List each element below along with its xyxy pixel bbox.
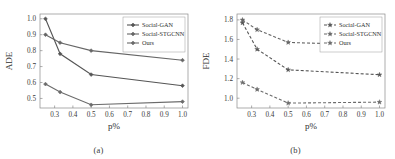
y-axis-label: ADE bbox=[4, 51, 14, 70]
y-tick-label: 1.2 bbox=[224, 75, 233, 83]
x-tick-label: 0.3 bbox=[247, 111, 256, 119]
panel-a-caption: (a) bbox=[0, 145, 197, 155]
chart-b: 0.30.40.50.60.70.80.91.01.01.21.41.61.8p… bbox=[197, 0, 394, 159]
x-tick-label: 0.9 bbox=[357, 111, 366, 119]
y-tick-label: 0.9 bbox=[27, 31, 36, 39]
x-tick-label: 0.6 bbox=[302, 111, 311, 119]
x-tick-label: 0.9 bbox=[160, 111, 169, 119]
legend-label-0: Social-GAN bbox=[339, 21, 370, 28]
y-tick-label: 0.7 bbox=[27, 63, 36, 71]
y-tick-label: 1.8 bbox=[224, 16, 233, 24]
panel-b-caption: (b) bbox=[197, 145, 394, 155]
x-tick-label: 0.8 bbox=[141, 111, 150, 119]
x-tick-label: 0.4 bbox=[68, 111, 77, 119]
x-tick-label: 1.0 bbox=[178, 111, 187, 119]
x-tick-label: 0.6 bbox=[105, 111, 114, 119]
y-tick-label: 0.8 bbox=[27, 47, 36, 55]
y-axis-label: FDE bbox=[201, 52, 211, 70]
x-tick-label: 0.8 bbox=[338, 111, 347, 119]
x-tick-label: 0.5 bbox=[284, 111, 293, 119]
x-axis-label: p% bbox=[305, 121, 318, 131]
x-tick-label: 0.5 bbox=[87, 111, 96, 119]
panel-a: 0.30.40.50.60.70.80.91.00.50.60.70.80.91… bbox=[0, 0, 197, 159]
x-axis-label: p% bbox=[108, 121, 121, 131]
y-tick-label: 1.0 bbox=[27, 15, 36, 23]
chart-a: 0.30.40.50.60.70.80.91.00.50.60.70.80.91… bbox=[0, 0, 197, 159]
y-tick-label: 1.0 bbox=[224, 95, 233, 103]
panel-b: 0.30.40.50.60.70.80.91.01.01.21.41.61.8p… bbox=[197, 0, 394, 159]
y-tick-label: 0.6 bbox=[27, 79, 36, 87]
x-tick-label: 0.4 bbox=[265, 111, 274, 119]
legend-label-1: Social-STGCNN bbox=[339, 30, 382, 37]
y-tick-label: 1.6 bbox=[224, 36, 233, 44]
legend-label-2: Ours bbox=[339, 39, 352, 46]
x-tick-label: 0.7 bbox=[123, 111, 132, 119]
y-tick-label: 1.4 bbox=[224, 56, 233, 64]
y-tick-label: 0.5 bbox=[27, 95, 36, 103]
x-tick-label: 0.3 bbox=[50, 111, 59, 119]
figure-container: 0.30.40.50.60.70.80.91.00.50.60.70.80.91… bbox=[0, 0, 395, 159]
legend-label-0: Social-GAN bbox=[142, 21, 173, 28]
x-tick-label: 0.7 bbox=[320, 111, 329, 119]
legend-label-2: Ours bbox=[142, 39, 155, 46]
x-tick-label: 1.0 bbox=[375, 111, 384, 119]
legend-label-1: Social-STGCNN bbox=[142, 30, 185, 37]
